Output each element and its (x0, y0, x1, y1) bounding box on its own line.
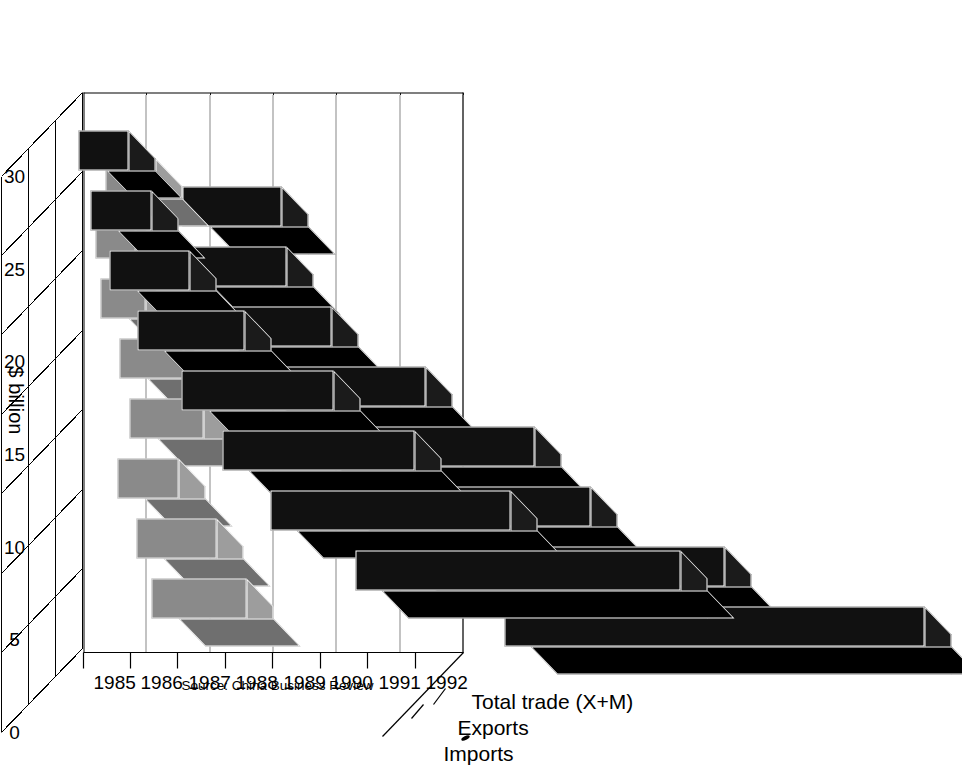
bar-front-face (136, 518, 216, 558)
value-tick-label: 25 (3, 259, 24, 278)
bar-front-face (222, 430, 415, 470)
legend-item-2: Imports (443, 742, 513, 763)
source-note: Source: China Business Review (181, 678, 373, 692)
bar (181, 370, 333, 410)
bar-front-face (109, 250, 189, 290)
value-tick-label: 15 (3, 445, 24, 464)
bar (78, 130, 127, 170)
bar (137, 310, 245, 350)
bar-front-face (355, 550, 681, 590)
bar (355, 550, 681, 590)
category-tick-label: 1985 (93, 672, 135, 691)
bar-front-face (78, 130, 127, 170)
value-tick-label: 10 (3, 537, 24, 556)
value-tick-label: 30 (3, 167, 24, 186)
bar (90, 190, 151, 230)
bar-side-face (382, 590, 735, 618)
value-tick-label: 5 (9, 630, 20, 649)
value-tick-label: 0 (9, 723, 20, 742)
bar (136, 518, 216, 558)
bar-front-face (117, 458, 178, 498)
bar-side-face (531, 646, 962, 674)
bar-front-face (270, 490, 511, 530)
bar (109, 250, 189, 290)
category-tick-label: 1991 (378, 672, 420, 691)
bar-front-face (151, 578, 246, 618)
bar (270, 490, 511, 530)
bar-front-face (181, 370, 333, 410)
bar (117, 458, 178, 498)
legend-item-1: Exports (457, 716, 528, 737)
bar (222, 430, 415, 470)
plot-area (83, 92, 463, 652)
legend-item-0: Total trade (X+M) (471, 690, 633, 711)
category-tick-label: 1992 (426, 672, 468, 691)
value-axis-title: $ billion (5, 366, 25, 434)
bar (151, 578, 246, 618)
category-tick-label: 1986 (141, 672, 183, 691)
bar-front-face (137, 310, 245, 350)
bar-front-face (90, 190, 151, 230)
